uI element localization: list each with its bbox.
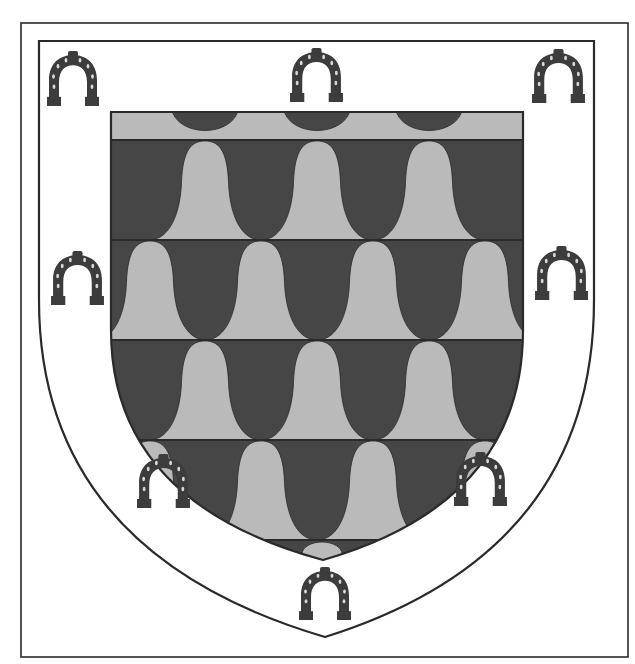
vair-row-4 bbox=[101, 340, 533, 440]
coat-of-arms-canvas bbox=[0, 0, 635, 664]
vair-row-3 bbox=[94, 240, 541, 340]
vair-row-2 bbox=[101, 140, 533, 240]
coat-of-arms-illustration bbox=[0, 0, 635, 664]
